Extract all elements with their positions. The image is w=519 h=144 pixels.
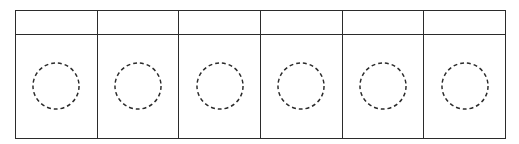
grid-column-3 [178, 11, 260, 138]
dashed-circle-icon [440, 61, 489, 110]
column-header-5 [343, 11, 424, 35]
grid-column-5 [342, 11, 424, 138]
column-body-4 [261, 35, 342, 138]
grid-frame [15, 10, 506, 139]
column-body-5 [343, 35, 424, 138]
dashed-circle-icon [277, 61, 326, 110]
dashed-circle-icon [114, 61, 163, 110]
column-body-6 [424, 35, 505, 138]
column-header-6 [424, 11, 505, 35]
column-header-2 [98, 11, 179, 35]
dashed-circle-icon [359, 61, 408, 110]
grid-column-2 [97, 11, 179, 138]
column-header-3 [179, 11, 260, 35]
column-body-1 [16, 35, 97, 138]
column-header-4 [261, 11, 342, 35]
grid-column-4 [260, 11, 342, 138]
grid-column-1 [16, 11, 97, 138]
dashed-circle-icon [32, 61, 81, 110]
dashed-circle-icon [195, 61, 244, 110]
column-body-3 [179, 35, 260, 138]
column-body-2 [98, 35, 179, 138]
column-header-1 [16, 11, 97, 35]
grid-column-6 [423, 11, 505, 138]
